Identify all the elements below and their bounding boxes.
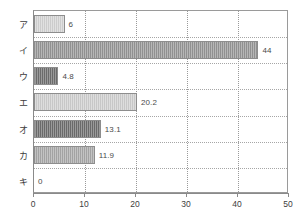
bar[interactable] bbox=[34, 15, 65, 33]
bar-value-label: 4.8 bbox=[62, 72, 73, 81]
bar-chart: ア6イ44ウ4.8エ20.2オ13.1カ11.9キ0 01020304050 bbox=[0, 0, 306, 223]
bar[interactable] bbox=[34, 93, 137, 111]
category-label: カ bbox=[19, 148, 28, 161]
bar-row: イ44 bbox=[34, 37, 287, 63]
bar[interactable] bbox=[34, 120, 101, 138]
x-axis-tick bbox=[288, 193, 289, 197]
bar-rows: ア6イ44ウ4.8エ20.2オ13.1カ11.9キ0 bbox=[34, 11, 287, 192]
x-axis-tick-label: 20 bbox=[130, 199, 139, 209]
bar[interactable] bbox=[34, 146, 95, 164]
category-label: エ bbox=[19, 96, 28, 109]
x-axis-tick bbox=[33, 193, 34, 197]
bar-value-label: 11.9 bbox=[99, 150, 114, 159]
bar-row: キ0 bbox=[34, 168, 287, 194]
bar-row: ア6 bbox=[34, 11, 287, 37]
bar-row: エ20.2 bbox=[34, 89, 287, 115]
bar-value-label: 20.2 bbox=[141, 98, 157, 107]
x-axis-tick-label: 30 bbox=[181, 199, 190, 209]
x-axis-tick bbox=[84, 193, 85, 197]
x-axis-tick-label: 50 bbox=[283, 199, 292, 209]
x-axis-tick bbox=[237, 193, 238, 197]
x-axis-tick bbox=[186, 193, 187, 197]
x-axis bbox=[33, 193, 288, 194]
x-axis-tick-label: 40 bbox=[232, 199, 241, 209]
bar-row: オ13.1 bbox=[34, 116, 287, 142]
category-label: ア bbox=[19, 18, 28, 31]
plot-area: ア6イ44ウ4.8エ20.2オ13.1カ11.9キ0 bbox=[33, 10, 288, 193]
category-label: オ bbox=[19, 122, 28, 135]
category-label: ウ bbox=[19, 70, 28, 83]
bar[interactable] bbox=[34, 67, 58, 85]
bar-row: カ11.9 bbox=[34, 142, 287, 168]
bar-value-label: 6 bbox=[69, 20, 74, 29]
x-axis-tick bbox=[135, 193, 136, 197]
bar-value-label: 13.1 bbox=[105, 124, 121, 133]
bar[interactable] bbox=[34, 41, 258, 59]
category-label: キ bbox=[19, 174, 28, 187]
x-axis-tick-label: 0 bbox=[31, 199, 36, 209]
x-axis-tick-label: 10 bbox=[79, 199, 88, 209]
bar-value-label: 0 bbox=[38, 176, 43, 185]
category-label: イ bbox=[19, 44, 28, 57]
bar-value-label: 44 bbox=[262, 46, 271, 55]
bar-row: ウ4.8 bbox=[34, 63, 287, 89]
